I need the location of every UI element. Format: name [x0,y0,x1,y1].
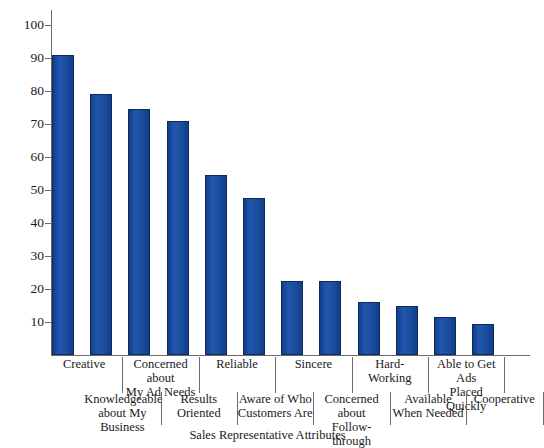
category-label-line: Oriented [161,406,237,420]
y-tick-mark [45,256,52,257]
category-label-line: Concerned about [122,357,198,385]
y-tick-mark [45,289,52,290]
category-label-line: When Needed [390,406,466,420]
category-label: AvailableWhen Needed [390,392,466,426]
y-tick-mark [45,190,52,191]
y-tick-mark [45,124,52,125]
category-label-line: Sincere [275,357,351,371]
y-tick-mark [45,58,52,59]
y-tick-mark [45,157,52,158]
bar [319,281,341,355]
category-label-line: Hard- [352,357,428,371]
y-tick-mark [45,91,52,92]
y-tick-label: 60 [0,150,44,164]
category-label: Hard-Working [352,357,428,391]
bar [281,281,303,355]
category-label: Aware of WhoCustomers Are [237,392,313,426]
bar [472,324,494,355]
y-tick-label: 10 [0,315,44,329]
category-label-line: Able to Get Ads [428,357,504,385]
bar [434,317,456,355]
category-label: Concerned aboutFollow-through [313,392,389,426]
category-label-line: Working [352,371,428,385]
category-label-line: Concerned about [313,392,389,420]
bar [205,175,227,355]
y-tick-label: 50 [0,183,44,197]
y-tick-label: 90 [0,51,44,65]
category-label: Reliable [199,357,275,391]
bar [52,55,74,355]
top-clipped-mark [66,0,76,6]
category-label: Able to Get AdsPlaced Quickly [428,357,504,391]
x-axis-line [51,355,530,356]
y-tick-mark [45,25,52,26]
category-label-line: Aware of Who [237,392,313,406]
category-label-line: Reliable [199,357,275,371]
y-tick-label: 100 [0,18,44,32]
x-axis-title: Sales Representative Attributes [0,428,535,443]
category-label: Cooperative [466,392,542,426]
category-label: Knowledgeableabout My Business [84,392,160,426]
y-tick-label: 70 [0,117,44,131]
bar [396,306,418,356]
y-tick-label: 40 [0,216,44,230]
y-tick-mark [45,322,52,323]
bar [167,121,189,355]
bar [90,94,112,355]
category-label-line: Knowledgeable [84,392,160,406]
label-separator [504,357,505,393]
bar [243,198,265,355]
y-tick-mark [45,223,52,224]
label-separator [543,392,544,425]
category-label: Creative [46,357,122,391]
y-tick-label: 20 [0,282,44,296]
y-tick-label: 30 [0,249,44,263]
category-label-line: Available [390,392,466,406]
category-label-line: Cooperative [466,392,542,406]
category-label-line: Customers Are [237,406,313,420]
bar [128,109,150,355]
category-label-line: Creative [46,357,122,371]
category-label-line: Results [161,392,237,406]
category-label: ResultsOriented [161,392,237,426]
category-label: Sincere [275,357,351,391]
y-tick-label: 80 [0,84,44,98]
bar [358,302,380,355]
category-label: Concerned aboutMy Ad Needs [122,357,198,391]
